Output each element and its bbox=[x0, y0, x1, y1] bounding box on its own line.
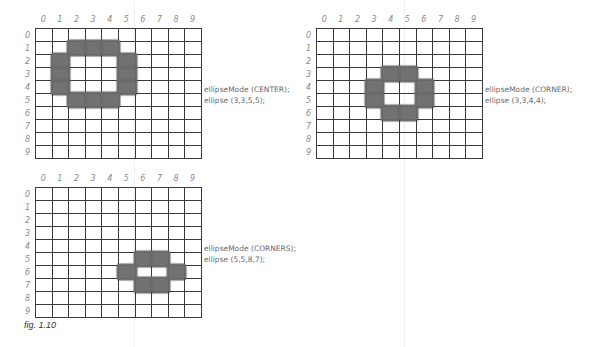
grid-cell bbox=[53, 201, 70, 214]
grid-cell bbox=[36, 94, 53, 107]
grid-cell bbox=[86, 253, 103, 266]
grid-cell bbox=[69, 214, 86, 227]
row-label: 0 bbox=[20, 188, 30, 201]
ellipse-mode-line: ellipseMode (CORNERS); bbox=[204, 243, 296, 254]
grid-cell bbox=[53, 146, 70, 159]
grid-cell bbox=[152, 227, 169, 240]
grid-cell bbox=[185, 68, 202, 81]
grid-cell bbox=[466, 120, 483, 133]
grid-cell bbox=[69, 227, 86, 240]
grid-cell bbox=[185, 55, 202, 68]
grid-cell bbox=[102, 253, 119, 266]
grid-cell bbox=[86, 214, 103, 227]
grid-cell bbox=[185, 253, 202, 266]
grid-cell bbox=[383, 120, 400, 133]
row-label: 3 bbox=[20, 227, 30, 240]
row-label: 9 bbox=[20, 305, 30, 318]
grid-cell bbox=[185, 146, 202, 159]
grid-cell bbox=[152, 146, 169, 159]
column-label: 5 bbox=[118, 174, 135, 183]
grid-cell bbox=[350, 68, 367, 81]
grid-cell bbox=[450, 81, 467, 94]
column-label: 7 bbox=[151, 174, 168, 183]
grid-cell bbox=[69, 107, 86, 120]
column-label: 1 bbox=[333, 15, 350, 24]
grid-cell bbox=[86, 305, 103, 318]
grid-cell bbox=[102, 188, 119, 201]
grid-cell bbox=[417, 107, 434, 120]
row-label: 2 bbox=[301, 55, 311, 68]
grid-cell bbox=[334, 146, 351, 159]
grid-cell bbox=[466, 29, 483, 42]
grid-cell bbox=[185, 266, 202, 279]
column-label: 5 bbox=[399, 15, 416, 24]
grid-cell bbox=[400, 133, 417, 146]
grid-cell bbox=[334, 55, 351, 68]
grid-cell bbox=[185, 227, 202, 240]
grid-cell bbox=[317, 120, 334, 133]
grid-cell bbox=[119, 305, 136, 318]
grid-cell bbox=[450, 120, 467, 133]
grid-cell bbox=[417, 146, 434, 159]
grid-cell bbox=[383, 133, 400, 146]
grid-cell bbox=[466, 68, 483, 81]
grid-cell bbox=[450, 29, 467, 42]
filled-pixel bbox=[400, 68, 417, 81]
column-label: 3 bbox=[85, 15, 102, 24]
grid-cell bbox=[102, 240, 119, 253]
grid-cell bbox=[169, 81, 186, 94]
grid-cell bbox=[36, 214, 53, 227]
row-label: 0 bbox=[301, 29, 311, 42]
grid-cell bbox=[69, 120, 86, 133]
filled-pixel bbox=[102, 42, 119, 55]
column-label: 9 bbox=[465, 15, 482, 24]
grid-cell bbox=[169, 120, 186, 133]
grid-cell bbox=[119, 292, 136, 305]
column-label: 2 bbox=[68, 15, 85, 24]
grid-cell bbox=[152, 201, 169, 214]
filled-pixel bbox=[152, 253, 169, 266]
pixel-grid bbox=[35, 187, 202, 318]
grid-cell bbox=[152, 107, 169, 120]
grid-cell bbox=[119, 120, 136, 133]
column-label: 4 bbox=[101, 15, 118, 24]
column-label: 8 bbox=[168, 15, 185, 24]
grid-cell bbox=[334, 81, 351, 94]
grid-cell bbox=[36, 292, 53, 305]
column-label: 0 bbox=[35, 15, 52, 24]
grid-cell bbox=[367, 146, 384, 159]
column-label: 6 bbox=[416, 15, 433, 24]
grid-cell bbox=[367, 133, 384, 146]
column-label: 7 bbox=[151, 15, 168, 24]
grid-cell bbox=[317, 55, 334, 68]
filled-pixel bbox=[119, 81, 136, 94]
grid-cell bbox=[169, 55, 186, 68]
grid-cell bbox=[152, 42, 169, 55]
row-label: 5 bbox=[20, 253, 30, 266]
grid-cell bbox=[152, 94, 169, 107]
grid-cell bbox=[317, 94, 334, 107]
grid-cell bbox=[136, 120, 153, 133]
filled-pixel bbox=[417, 94, 434, 107]
grid-cell bbox=[69, 266, 86, 279]
grid-cell bbox=[185, 305, 202, 318]
grid-cell bbox=[152, 133, 169, 146]
grid-cell bbox=[433, 133, 450, 146]
grid-cell bbox=[417, 42, 434, 55]
grid-cell bbox=[466, 81, 483, 94]
grid-cell bbox=[36, 253, 53, 266]
row-label: 3 bbox=[301, 68, 311, 81]
filled-pixel bbox=[400, 107, 417, 120]
grid-cell bbox=[53, 120, 70, 133]
row-labels: 0123456789 bbox=[20, 29, 30, 159]
grid-cell bbox=[53, 253, 70, 266]
grid-cell bbox=[317, 133, 334, 146]
column-labels: 0123456789 bbox=[316, 15, 482, 24]
grid-cell bbox=[136, 227, 153, 240]
grid-cell bbox=[136, 107, 153, 120]
grid-cell bbox=[119, 146, 136, 159]
grid-cell bbox=[86, 146, 103, 159]
grid-cell bbox=[136, 94, 153, 107]
grid-cell bbox=[350, 133, 367, 146]
grid-cell bbox=[69, 279, 86, 292]
